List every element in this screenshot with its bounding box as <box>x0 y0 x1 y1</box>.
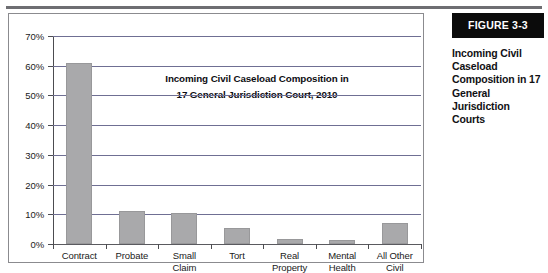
plot-area <box>53 36 421 244</box>
y-tick-mark <box>48 185 53 186</box>
gridline <box>53 244 421 245</box>
x-tick-mark <box>263 244 264 249</box>
bar <box>171 213 197 244</box>
x-axis-category-label-line: Claim <box>153 262 215 273</box>
x-tick-mark <box>53 244 54 249</box>
x-tick-mark <box>368 244 369 249</box>
x-tick-mark <box>158 244 159 249</box>
y-tick-mark <box>48 214 53 215</box>
gridline <box>53 36 421 37</box>
x-tick-mark <box>106 244 107 249</box>
y-axis-tick-label: 40% <box>10 120 44 131</box>
bar <box>66 63 92 244</box>
gridline <box>53 95 421 96</box>
y-tick-mark <box>48 125 53 126</box>
y-axis-tick-label: 30% <box>10 149 44 160</box>
y-tick-mark <box>48 66 53 67</box>
bar <box>382 223 408 244</box>
gridline <box>53 214 421 215</box>
figure-caption-box: FIGURE 3-3 Incoming Civil Caseload Compo… <box>452 13 544 126</box>
figure-number-banner: FIGURE 3-3 <box>452 13 544 38</box>
y-tick-mark <box>48 155 53 156</box>
x-axis-category-label-line: All Other <box>364 250 426 262</box>
gridline <box>53 66 421 67</box>
chart-panel: Incoming Civil Caseload Composition in 1… <box>8 13 424 263</box>
y-axis-tick-label: 70% <box>10 31 44 42</box>
page-top-rule <box>6 6 542 9</box>
x-axis-end-cap <box>421 244 422 249</box>
gridline <box>53 125 421 126</box>
y-tick-mark <box>48 95 53 96</box>
bar <box>329 240 355 244</box>
x-tick-mark <box>316 244 317 249</box>
bar <box>119 211 145 244</box>
y-tick-mark <box>48 36 53 37</box>
y-axis-tick-label: 20% <box>10 179 44 190</box>
y-axis-tick-label: 50% <box>10 90 44 101</box>
y-axis-tick-label: 0% <box>10 239 44 250</box>
x-tick-mark <box>211 244 212 249</box>
bar <box>224 228 250 244</box>
figure-caption-text: Incoming Civil Caseload Composition in 1… <box>452 47 544 126</box>
bar <box>277 239 303 244</box>
x-axis-category-label: All OtherCivil <box>364 250 426 273</box>
y-axis-tick-label: 60% <box>10 60 44 71</box>
x-axis-category-label-line: Civil <box>364 262 426 273</box>
gridline <box>53 185 421 186</box>
gridline <box>53 155 421 156</box>
y-axis-tick-label: 10% <box>10 209 44 220</box>
